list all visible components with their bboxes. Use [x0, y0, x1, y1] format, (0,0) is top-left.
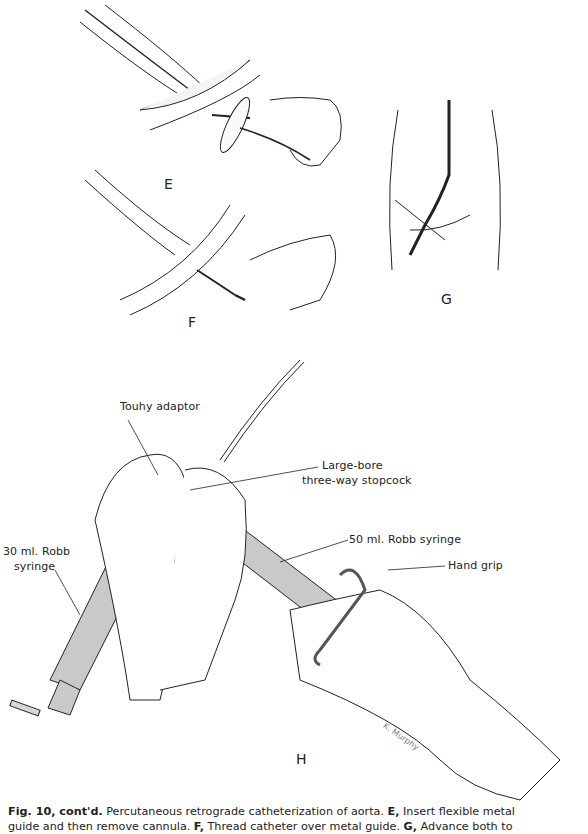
panel-e-drawing [80, 5, 341, 166]
panel-label-e: E [164, 176, 173, 192]
callout-syringe30-line2: syringe [14, 560, 55, 574]
figure-caption: Fig. 10, cont'd. Percutaneous retrograde… [8, 804, 568, 834]
callout-syringe30-line1: 30 ml. Robb [3, 545, 70, 559]
panel-label-f: F [188, 314, 196, 330]
callout-touhy-adaptor: Touhy adaptor [120, 400, 200, 414]
panel-h-drawing [10, 360, 560, 800]
caption-fig-number: Fig. 10, cont'd. [8, 805, 103, 818]
panel-label-g: G [441, 291, 452, 307]
callout-hand-grip: Hand grip [448, 559, 503, 573]
callout-stopcock-line2: three-way stopcock [302, 474, 412, 488]
caption-line-1: Fig. 10, cont'd. Percutaneous retrograde… [8, 804, 568, 819]
callout-stopcock-line1: Large-bore [322, 459, 383, 473]
panel-label-h: H [296, 751, 307, 767]
callout-syringe50: 50 ml. Robb syringe [349, 533, 461, 547]
panel-f-drawing [85, 170, 336, 315]
caption-line-2: guide and then remove cannula. F, Thread… [8, 819, 568, 834]
panel-g-drawing [390, 100, 501, 270]
